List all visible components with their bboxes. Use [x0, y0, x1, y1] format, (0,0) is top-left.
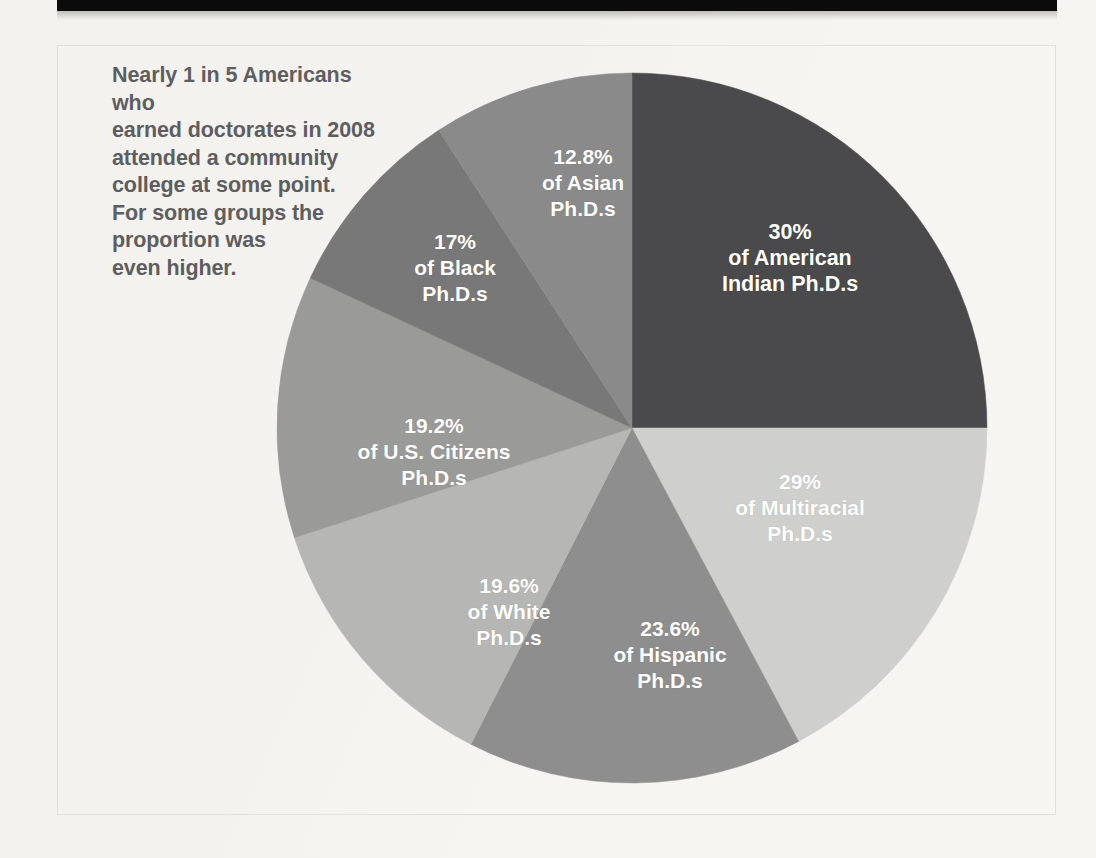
pie-label-us-citizens: 19.2% of U.S. Citizens Ph.D.s	[358, 413, 511, 491]
pie-label-asian: 12.8% of Asian Ph.D.s	[542, 144, 624, 222]
pie-label-black: 17% of Black Ph.D.s	[414, 229, 496, 307]
pie-label-hispanic: 23.6% of Hispanic Ph.D.s	[613, 616, 726, 694]
pie-label-multiracial: 29% of Multiracial Ph.D.s	[735, 469, 865, 547]
pie-label-white: 19.6% of White Ph.D.s	[468, 573, 551, 651]
pie-label-american-indian: 30% of American Indian Ph.D.s	[722, 219, 858, 297]
figure-caption: Nearly 1 in 5 Americans who earned docto…	[112, 62, 392, 282]
